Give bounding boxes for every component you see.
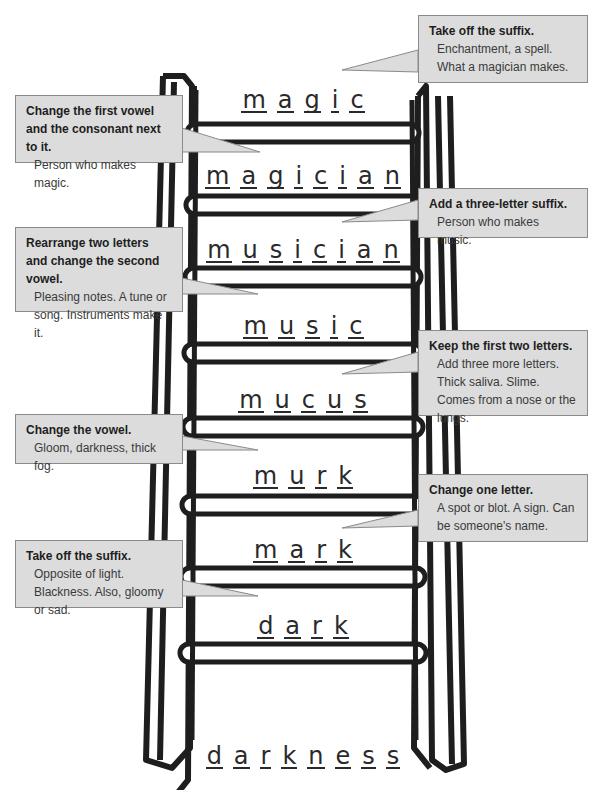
letter-blank: a	[233, 745, 250, 769]
letter-blank: s	[269, 239, 284, 263]
letter-blank: i	[338, 165, 347, 189]
clue-definition: Person who makes magic.	[26, 156, 172, 192]
letter-blank: k	[281, 745, 297, 769]
letter-blank: i	[337, 239, 346, 263]
clue-definition: A spot or blot. A sign. Can be someone's…	[429, 499, 577, 535]
clue-instruction: Keep the first two letters.	[429, 339, 572, 353]
letter-blank: r	[315, 465, 327, 489]
letter-blank: m	[253, 465, 278, 489]
letter-blank: n	[384, 165, 401, 189]
letter-blank: k	[337, 539, 353, 563]
letter-blank: s	[386, 745, 401, 769]
letter-blank: i	[294, 165, 303, 189]
letter-blank: m	[243, 315, 268, 339]
letter-blank: k	[337, 465, 353, 489]
clue-instruction: Change the vowel.	[26, 423, 131, 437]
letter-blank: g	[304, 89, 321, 113]
clue-definition: Opposite of light. Blackness. Also, gloo…	[26, 565, 172, 619]
letter-blank: s	[305, 315, 320, 339]
clue-definition: Add three more letters. Thick saliva. Sl…	[429, 355, 577, 427]
letter-blank: m	[205, 165, 230, 189]
clue-instruction: Add a three-letter suffix.	[429, 197, 567, 211]
letter-blank: a	[288, 539, 305, 563]
letter-blank: i	[330, 315, 339, 339]
letter-blank: c	[312, 239, 327, 263]
letter-blank: g	[267, 165, 284, 189]
clue-8: Take off the suffix. Opposite of light. …	[15, 540, 183, 608]
letter-blank: m	[206, 239, 231, 263]
letter-blank: a	[277, 89, 294, 113]
letter-blank: i	[293, 239, 302, 263]
letter-blank: s	[361, 745, 376, 769]
letter-blank: r	[311, 615, 323, 639]
clue-instruction: Rearrange two letters and change the sec…	[26, 236, 159, 286]
letter-blank: e	[335, 745, 352, 769]
letter-blank: c	[348, 315, 363, 339]
letter-blank: m	[253, 539, 278, 563]
letter-blank: n	[307, 745, 324, 769]
letter-blank: a	[357, 165, 374, 189]
letter-blank: u	[326, 389, 343, 413]
letter-blank: u	[242, 239, 259, 263]
clue-definition: Gloom, darkness, thick fog.	[26, 439, 172, 475]
clue-7: Change one letter. A spot or blot. A sig…	[418, 474, 588, 542]
clue-6: Change the vowel. Gloom, darkness, thick…	[15, 414, 183, 464]
clue-definition: Enchantment, a spell. What a magician ma…	[429, 40, 577, 76]
letter-blank: a	[284, 615, 301, 639]
letter-blank: c	[349, 89, 364, 113]
letter-blank: a	[240, 165, 257, 189]
letter-blank: s	[353, 389, 368, 413]
letter-blank: n	[383, 239, 400, 263]
clue-instruction: Take off the suffix.	[26, 549, 131, 563]
clue-instruction: Change the first vowel and the consonant…	[26, 104, 161, 154]
letter-blank: r	[260, 745, 272, 769]
letter-blank: c	[301, 389, 316, 413]
clue-definition: Pleasing notes. A tune or song. Instrume…	[26, 288, 172, 342]
letter-blank: a	[356, 239, 373, 263]
letter-blank: u	[278, 315, 295, 339]
letter-blank: d	[257, 615, 274, 639]
clue-definition: Person who makes music.	[429, 213, 577, 249]
clue-2: Change the first vowel and the consonant…	[15, 95, 183, 163]
clue-1: Take off the suffix. Enchantment, a spel…	[418, 15, 588, 83]
letter-blank: d	[206, 745, 223, 769]
letter-blank: u	[274, 389, 291, 413]
letter-blank: c	[313, 165, 328, 189]
clue-3: Add a three-letter suffix. Person who ma…	[418, 188, 588, 238]
letter-blank: i	[331, 89, 340, 113]
letter-blank: m	[238, 389, 263, 413]
word-darkness: darkness	[0, 742, 606, 770]
letter-blank: m	[241, 89, 266, 113]
clue-5: Keep the first two letters. Add three mo…	[418, 330, 588, 416]
letter-blank: k	[333, 615, 349, 639]
clue-instruction: Change one letter.	[429, 483, 533, 497]
clue-instruction: Take off the suffix.	[429, 24, 534, 38]
letter-blank: u	[288, 465, 305, 489]
letter-blank: r	[315, 539, 327, 563]
clue-4: Rearrange two letters and change the sec…	[15, 227, 183, 312]
